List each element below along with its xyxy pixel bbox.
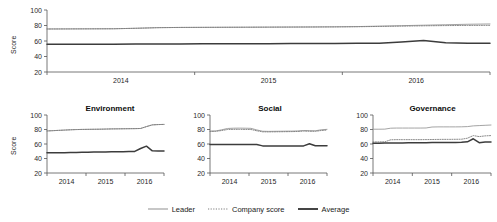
svg-text:2016: 2016 <box>300 178 316 185</box>
svg-text:2014: 2014 <box>385 178 401 185</box>
svg-text:60: 60 <box>360 141 368 148</box>
svg-text:80: 80 <box>34 22 42 29</box>
series-line-leader <box>47 24 490 29</box>
svg-text:20: 20 <box>197 170 205 177</box>
svg-text:40: 40 <box>360 155 368 162</box>
series-line-average <box>47 40 490 44</box>
svg-text:2014: 2014 <box>59 178 75 185</box>
chart-panel-social: Social 10080604020201420152016 <box>170 103 333 195</box>
legend-item-leader: Leader <box>148 205 195 214</box>
svg-text:2015: 2015 <box>261 77 277 84</box>
svg-text:80: 80 <box>197 126 205 133</box>
svg-text:20: 20 <box>360 170 368 177</box>
series-line-average <box>210 144 327 146</box>
svg-text:2015: 2015 <box>98 178 114 185</box>
legend-label-company-score: Company score <box>232 205 285 214</box>
series-line-leader <box>373 125 491 129</box>
svg-text:20: 20 <box>34 170 42 177</box>
esg-score-figure: Score 10080604020201420152016 Environmen… <box>0 0 497 222</box>
svg-text:40: 40 <box>34 155 42 162</box>
plot-area-environment: 10080604020201420152016 <box>0 103 170 195</box>
svg-text:40: 40 <box>197 155 205 162</box>
svg-text:80: 80 <box>34 126 42 133</box>
svg-text:100: 100 <box>193 112 205 119</box>
svg-text:2015: 2015 <box>261 178 277 185</box>
svg-text:100: 100 <box>356 112 368 119</box>
legend: Leader Company score Average <box>0 198 497 220</box>
panel-title-governance: Governance <box>375 104 490 113</box>
svg-text:60: 60 <box>34 38 42 45</box>
svg-text:20: 20 <box>34 69 42 76</box>
svg-text:80: 80 <box>360 126 368 133</box>
svg-text:2016: 2016 <box>137 178 153 185</box>
plot-area-social: 10080604020201420152016 <box>170 103 333 195</box>
svg-text:100: 100 <box>30 112 42 119</box>
svg-text:2014: 2014 <box>222 178 238 185</box>
panel-title-environment: Environment <box>55 104 165 113</box>
svg-text:2016: 2016 <box>464 178 480 185</box>
svg-text:100: 100 <box>30 7 42 14</box>
chart-panel-governance: Governance 10080604020201420152016 <box>333 103 497 195</box>
y-axis-label-environment: Score <box>10 137 17 155</box>
legend-swatch-company-score <box>208 206 228 212</box>
chart-panel-overall: Score 10080604020201420152016 <box>0 0 497 100</box>
svg-text:40: 40 <box>34 53 42 60</box>
svg-text:2014: 2014 <box>113 77 129 84</box>
plot-area-overall: 10080604020201420152016 <box>0 0 497 100</box>
plot-area-governance: 10080604020201420152016 <box>333 103 497 195</box>
legend-label-average: Average <box>322 205 350 214</box>
legend-item-company-score: Company score <box>208 205 285 214</box>
svg-text:60: 60 <box>197 141 205 148</box>
svg-text:2015: 2015 <box>424 178 440 185</box>
svg-text:2016: 2016 <box>408 77 424 84</box>
legend-swatch-average <box>298 206 318 212</box>
chart-panel-environment: Environment Score 1008060402020142015201… <box>0 103 170 195</box>
svg-text:60: 60 <box>34 141 42 148</box>
panel-title-social: Social <box>215 104 325 113</box>
series-line-company-score <box>47 124 164 131</box>
legend-item-average: Average <box>298 205 350 214</box>
series-line-average <box>47 146 164 153</box>
y-axis-label-overall: Score <box>10 36 17 54</box>
legend-swatch-leader <box>148 206 168 212</box>
legend-label-leader: Leader <box>172 205 195 214</box>
